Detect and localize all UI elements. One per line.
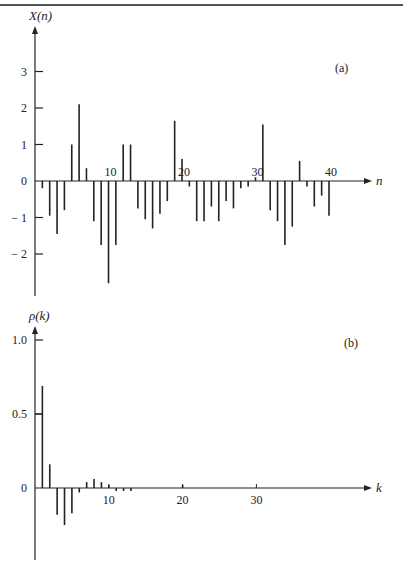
chart-b-x-tick-label: 10 <box>103 493 115 507</box>
chart-b-y-tick-label: 0.5 <box>12 407 27 421</box>
chart-b-y-tick-label: 1.0 <box>12 333 27 347</box>
chart-b-y-tick-label: 0 <box>21 481 27 495</box>
chart-b-autocorrelation: ρ(k)k(b)1.00.50102030 <box>0 0 403 570</box>
chart-b-x-title: k <box>376 480 382 495</box>
chart-b-x-tick-label: 30 <box>250 493 262 507</box>
arrow-up-icon <box>32 326 38 334</box>
chart-b-axes: ρ(k)k(b)1.00.50102030 <box>12 308 382 560</box>
chart-b-panel-label: (b) <box>344 336 358 350</box>
chart-b-x-tick-label: 20 <box>177 493 189 507</box>
arrow-right-icon <box>364 485 372 491</box>
chart-b-y-title: ρ(k) <box>28 308 50 323</box>
